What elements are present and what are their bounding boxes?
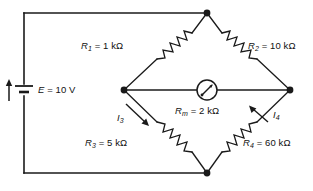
source-current-arrow-icon [6,79,12,101]
wire-r4-lower [207,152,222,173]
resistor-r1-zigzag [157,31,192,59]
source-label-value: = 10 V [47,84,75,95]
wire-r2-lower [257,59,290,90]
resistor-r4-value: = 60 kΩ [257,137,291,148]
resistor-r2-value: = 10 kΩ [262,40,296,51]
current-i4-sub: 4 [276,114,280,121]
resistor-r3-var: R [85,137,92,148]
meter-label: Rm = 2 kΩ [175,106,219,116]
wire-r3-lower [192,152,207,173]
resistor-r1-label: R1 = 1 kΩ [81,41,123,51]
node-right-dot [287,87,294,94]
resistor-r2-label: R2 = 10 kΩ [248,41,296,51]
resistor-r3-zigzag [157,122,192,152]
resistor-r1-var: R [81,40,88,51]
resistor-r3-value: = 5 kΩ [99,137,128,148]
source-label: E = 10 V [38,85,76,95]
resistor-r1-value: = 1 kΩ [95,40,124,51]
current-i3-sub: 3 [120,117,124,124]
node-bottom-dot [204,170,211,177]
battery-symbol [15,86,33,92]
resistor-r2-sub: 2 [255,45,259,52]
resistor-r3-label: R3 = 5 kΩ [85,138,127,148]
wire-r1-lower [124,59,157,90]
resistor-r4-sub: 4 [250,142,254,149]
resistor-r2-var: R [248,40,255,51]
meter-sub: m [182,110,188,117]
circuit-diagram-canvas: E = 10 V R1 = 1 kΩ R2 = 10 kΩ R3 = 5 kΩ … [0,0,313,191]
circuit-schematic [0,0,313,191]
current-i3-label: I3 [117,113,124,123]
resistor-r4-label: R4 = 60 kΩ [243,138,291,148]
resistor-r4-var: R [243,137,250,148]
galvanometer-icon [197,80,217,100]
current-i4-label: I4 [273,110,280,120]
meter-var: R [175,105,182,116]
resistor-r3-sub: 3 [92,142,96,149]
current-i3-arrow-icon [126,104,149,126]
node-top-dot [204,10,211,17]
meter-value: = 2 kΩ [191,105,220,116]
wire-r1-upper [192,13,207,33]
wire-r2-upper [207,13,222,33]
node-left-dot [121,87,128,94]
source-label-var: E [38,84,44,95]
resistor-r1-sub: 1 [88,45,92,52]
